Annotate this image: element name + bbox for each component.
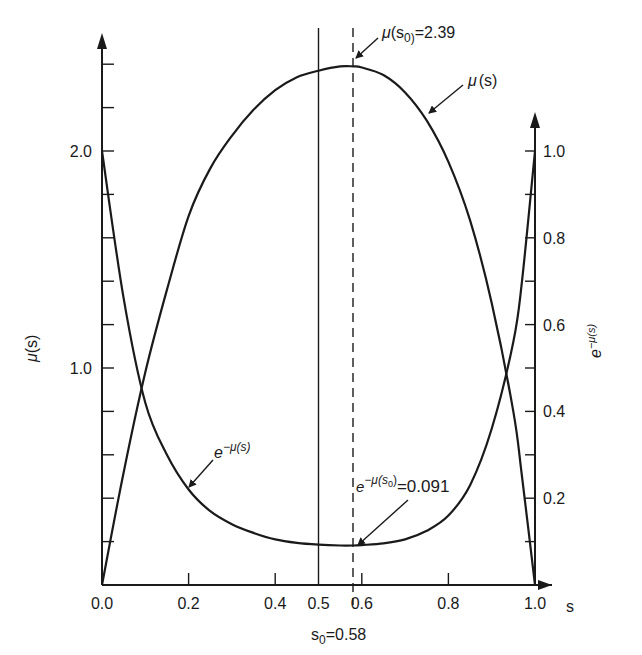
svg-text:e−μ(s0)=0.091: e−μ(s0)=0.091	[356, 473, 449, 496]
annotation-s0: s0=0.58	[311, 626, 366, 647]
y-right-tick-label: 0.4	[543, 403, 565, 420]
annotation-exp-neg-mu-curve: e−μ(s)	[189, 440, 250, 487]
x-tick-label: 0.2	[177, 595, 199, 612]
x-axis-label: s	[566, 598, 574, 615]
annotation-mu-peak: μ(s0)=2.39	[356, 24, 455, 58]
y-right-tick-label: 0.6	[543, 317, 565, 334]
x-tick-label: 0.0	[91, 595, 113, 612]
y-axis-left-label: μ(s)	[23, 335, 40, 363]
chart: 0.00.20.40.50.60.81.0 1.02.0 0.20.40.60.…	[0, 0, 642, 655]
svg-text:μ(s): μ(s)	[467, 72, 497, 89]
y-axis-right-arrow-icon	[530, 112, 540, 128]
x-tick-label: 0.6	[351, 595, 373, 612]
annotation-exp-neg-mu-min: e−μ(s0)=0.091	[356, 473, 449, 545]
x-tick-label: 0.8	[437, 595, 459, 612]
x-axis-arrow-icon	[538, 580, 552, 590]
y-left-ticks: 1.02.0	[70, 64, 114, 541]
y-left-tick-label: 2.0	[70, 143, 92, 160]
x-tick-label: 0.4	[264, 595, 286, 612]
annotation-mu-curve: μ(s)	[429, 72, 497, 113]
x-tick-label: 0.5	[307, 595, 329, 612]
svg-text:μ(s0)=2.39: μ(s0)=2.39	[381, 24, 455, 45]
y-right-tick-label: 1.0	[543, 143, 565, 160]
y-right-tick-label: 0.8	[543, 230, 565, 247]
y-right-tick-label: 0.2	[543, 490, 565, 507]
y-axis-right-label: e−μ(s)	[585, 323, 604, 358]
svg-text:e−μ(s): e−μ(s)	[214, 440, 250, 461]
svg-text:s0=0.58: s0=0.58	[311, 626, 366, 647]
y-left-tick-label: 1.0	[70, 360, 92, 377]
x-tick-label: 1.0	[524, 595, 546, 612]
y-axis-left-arrow-icon	[97, 33, 107, 49]
